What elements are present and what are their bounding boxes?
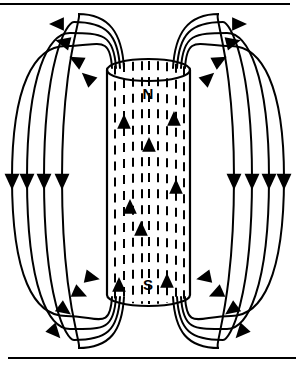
north-pole-label: N bbox=[143, 85, 154, 102]
magnetic-field-figure: N S bbox=[0, 0, 296, 368]
south-pole-label: S bbox=[143, 276, 153, 293]
figure-canvas: N S bbox=[0, 0, 296, 368]
